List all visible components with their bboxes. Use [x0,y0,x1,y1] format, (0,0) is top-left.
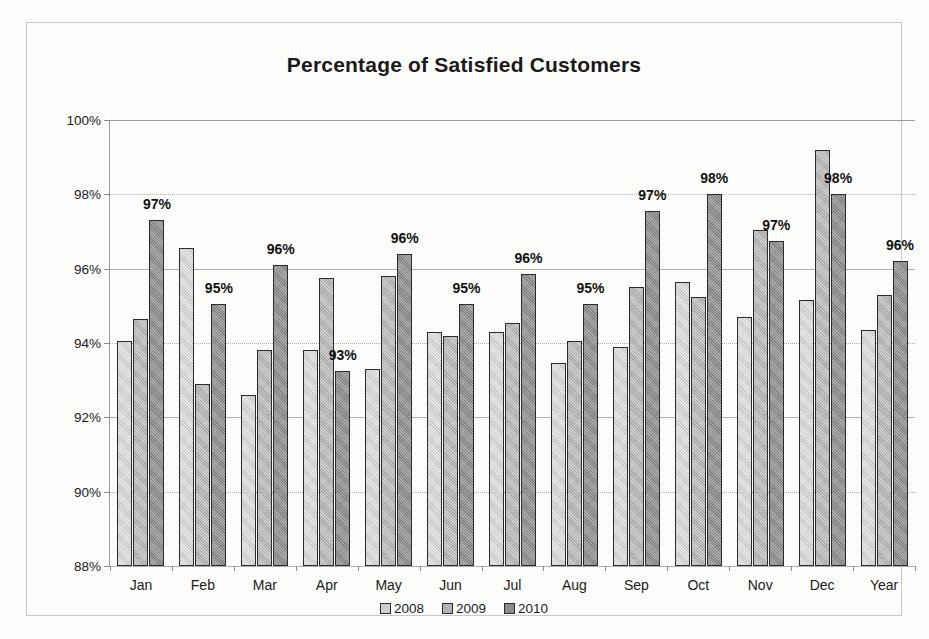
bar-value-label: 96% [267,241,295,257]
bar-2010-dec[interactable] [831,194,846,566]
bar-2010-aug[interactable] [583,304,598,566]
bar-2009-apr[interactable] [319,278,334,566]
bar-2009-may[interactable] [381,276,396,566]
bar-2008-jul[interactable] [489,332,504,566]
bar-2010-sep[interactable] [645,211,660,566]
x-axis-tick [482,566,483,571]
bar-group: 97% [729,120,791,566]
bar-2008-may[interactable] [365,369,380,566]
x-axis-label-nov: Nov [748,577,773,593]
legend-item-2008[interactable]: 2008 [380,601,424,616]
bar-2010-mar[interactable] [273,265,288,566]
bar-value-label: 96% [886,237,914,253]
bar-value-label: 97% [638,187,666,203]
x-axis-label-sep: Sep [624,577,649,593]
bar-2010-jun[interactable] [459,304,474,566]
bar-2008-apr[interactable] [303,350,318,566]
y-axis-label: 98% [74,187,101,202]
bar-2010-may[interactable] [397,254,412,566]
bar-2008-year[interactable] [861,330,876,566]
bar-2009-jan[interactable] [133,319,148,566]
x-axis-label-may: May [375,577,401,593]
bar-group: 96% [358,120,420,566]
x-axis-tick [172,566,173,571]
x-axis-label-feb: Feb [191,577,215,593]
x-axis-tick [358,566,359,571]
bar-2010-jul[interactable] [521,274,536,566]
bar-value-label: 95% [453,280,481,296]
x-axis-label-aug: Aug [562,577,587,593]
y-axis-label: 96% [74,261,101,276]
x-axis-label-apr: Apr [316,577,338,593]
legend-swatch-icon [380,603,391,614]
x-axis-label-dec: Dec [810,577,835,593]
bar-value-label: 95% [205,280,233,296]
bar-2008-feb[interactable] [179,248,194,566]
bar-2008-dec[interactable] [799,300,814,566]
bar-2010-feb[interactable] [211,304,226,566]
bar-2009-year[interactable] [877,295,892,566]
legend-item-2009[interactable]: 2009 [442,601,486,616]
bar-2009-mar[interactable] [257,350,272,566]
bar-2008-sep[interactable] [613,347,628,566]
x-axis-tick [234,566,235,571]
bar-2009-feb[interactable] [195,384,210,566]
bar-2008-aug[interactable] [551,363,566,566]
x-axis-label-jul: Jul [504,577,522,593]
bar-2009-sep[interactable] [629,287,644,566]
chart-legend: 200820092010 [27,601,901,616]
bar-2008-mar[interactable] [241,395,256,566]
legend-label: 2008 [394,601,424,616]
x-axis-label-mar: Mar [253,577,277,593]
bar-2008-nov[interactable] [737,317,752,566]
bar-2008-jan[interactable] [117,341,132,566]
gridline [110,566,915,567]
bar-2009-oct[interactable] [691,297,706,566]
bar-2009-aug[interactable] [567,341,582,566]
x-axis-tick [420,566,421,571]
y-axis-label: 94% [74,336,101,351]
legend-item-2010[interactable]: 2010 [504,601,548,616]
bar-value-label: 98% [824,170,852,186]
legend-label: 2010 [518,601,548,616]
bar-2010-apr[interactable] [335,371,350,566]
bar-value-label: 98% [700,170,728,186]
legend-label: 2009 [456,601,486,616]
bar-2008-jun[interactable] [427,332,442,566]
x-axis-tick [296,566,297,571]
x-axis-tick [543,566,544,571]
bar-value-label: 93% [329,347,357,363]
x-axis-label-oct: Oct [687,577,709,593]
bar-group: 95% [543,120,605,566]
bar-group: 97% [110,120,172,566]
bar-group: 98% [667,120,729,566]
bar-2009-jul[interactable] [505,323,520,566]
chart-title: Percentage of Satisfied Customers [27,53,901,77]
bar-group: 98% [791,120,853,566]
y-axis-label: 88% [74,559,101,574]
bar-2010-jan[interactable] [149,220,164,566]
bar-value-label: 97% [143,196,171,212]
y-axis-label: 90% [74,484,101,499]
bar-value-label: 97% [762,217,790,233]
plot-area: 88%90%92%94%96%98%100% 97%95%96%93%96%95… [109,120,915,567]
x-axis-tick [791,566,792,571]
bar-2009-nov[interactable] [753,230,768,566]
bar-value-label: 96% [391,230,419,246]
bar-group: 96% [234,120,296,566]
bar-group: 95% [172,120,234,566]
bar-2008-oct[interactable] [675,282,690,566]
bar-2009-dec[interactable] [815,150,830,566]
bar-value-label: 95% [576,280,604,296]
x-axis-tick [110,566,111,571]
chart-page: Percentage of Satisfied Customers 88%90%… [0,0,929,639]
bar-2010-oct[interactable] [707,194,722,566]
x-axis-label-year: Year [870,577,898,593]
bar-groups: 97%95%96%93%96%95%96%95%97%98%97%98%96% [110,120,915,566]
bar-2010-year[interactable] [893,261,908,566]
bar-2009-jun[interactable] [443,336,458,566]
legend-swatch-icon [504,603,515,614]
x-axis-tick [915,566,916,571]
bar-2010-nov[interactable] [769,241,784,566]
legend-swatch-icon [442,603,453,614]
